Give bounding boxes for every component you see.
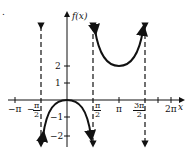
x-tick-2pi: 2π bbox=[165, 105, 177, 114]
x-tick-pi-half: π 2 bbox=[94, 102, 101, 119]
y-tick-1: 1 bbox=[55, 79, 61, 88]
y-tick-2: 2 bbox=[55, 62, 61, 71]
x-axis-label: x bbox=[178, 103, 183, 112]
x-tick-neg-pi: −π bbox=[8, 105, 21, 114]
bullet-mark: . bbox=[2, 8, 5, 17]
y-axis-label: f(x) bbox=[72, 12, 87, 21]
x-tick-pi: π bbox=[116, 105, 122, 114]
chart-canvas bbox=[0, 0, 190, 151]
x-tick-neg-pi-half: π 2 bbox=[33, 102, 40, 119]
x-tick-3pi-half: 3π 2 bbox=[133, 102, 145, 119]
y-tick-neg1: −1 bbox=[50, 113, 63, 122]
curve-branch-2 bbox=[95, 30, 143, 66]
y-tick-neg2: −2 bbox=[50, 132, 63, 141]
